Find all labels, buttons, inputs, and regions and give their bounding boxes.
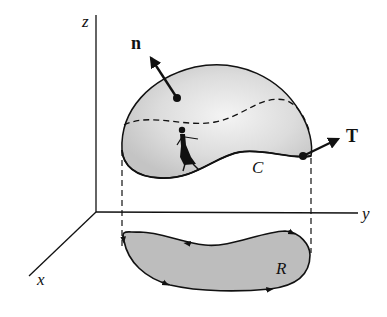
- tangent-base-point: [299, 152, 307, 160]
- curve-label: C: [252, 158, 264, 177]
- y-axis-label: y: [360, 204, 370, 223]
- x-axis: [29, 212, 96, 276]
- z-axis-label: z: [81, 12, 89, 31]
- normal-base-point: [173, 94, 181, 102]
- tangent-vector-label: T: [346, 126, 358, 146]
- region-label: R: [275, 259, 287, 278]
- stokes-diagram: z y x n T C: [0, 0, 387, 317]
- region: R: [123, 231, 310, 291]
- x-axis-label: x: [36, 270, 45, 289]
- surface: [122, 65, 312, 178]
- normal-vector-label: n: [131, 33, 141, 53]
- y-axis: [96, 212, 358, 213]
